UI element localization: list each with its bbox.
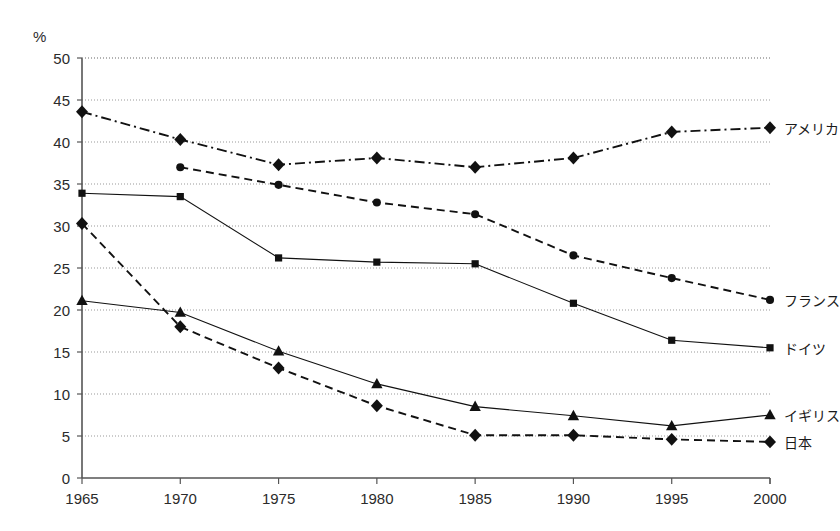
x-tick-label: 1965 (47, 490, 117, 507)
marker-square (275, 254, 282, 261)
marker-circle (373, 198, 381, 206)
y-tick-label: 0 (24, 470, 70, 487)
x-tick-label: 1995 (637, 490, 707, 507)
y-tick-label: 25 (24, 260, 70, 277)
marker-diamond (764, 121, 776, 134)
data-series-layer (76, 105, 776, 448)
x-tick-label: 1970 (145, 490, 215, 507)
x-tick-label: 1990 (538, 490, 608, 507)
series-japan (76, 217, 776, 448)
marker-diamond (273, 361, 285, 374)
y-tick-label: 30 (24, 218, 70, 235)
marker-triangle (273, 345, 284, 355)
series-line (82, 193, 770, 348)
marker-diamond (273, 158, 285, 171)
y-tick-label: 40 (24, 134, 70, 151)
series-united-kingdom (76, 295, 775, 430)
legend-label: フランス (784, 290, 840, 310)
y-tick-label: 50 (24, 50, 70, 67)
series-line (180, 167, 770, 300)
series-line (82, 301, 770, 426)
legend-label: 日本 (784, 432, 812, 452)
legend-label: イギリス (784, 405, 840, 425)
marker-circle (176, 163, 184, 171)
marker-triangle (764, 409, 775, 419)
marker-circle (766, 296, 774, 304)
marker-circle (471, 210, 479, 218)
marker-square (668, 337, 675, 344)
y-tick-label: 15 (24, 344, 70, 361)
marker-square (472, 260, 479, 267)
series-line (82, 224, 770, 442)
marker-diamond (764, 435, 776, 448)
x-tick-label: 1985 (440, 490, 510, 507)
marker-square (570, 300, 577, 307)
y-tick-label: 35 (24, 176, 70, 193)
y-tick-label: 10 (24, 386, 70, 403)
marker-diamond (76, 105, 88, 118)
marker-diamond (469, 161, 481, 174)
marker-square (177, 193, 184, 200)
marker-square (766, 344, 773, 351)
marker-diamond (174, 133, 186, 146)
marker-square (78, 190, 85, 197)
marker-circle (668, 274, 676, 282)
marker-diamond (371, 151, 383, 164)
marker-square (373, 259, 380, 266)
marker-diamond (567, 429, 579, 442)
marker-diamond (567, 151, 579, 164)
marker-diamond (469, 429, 481, 442)
marker-diamond (371, 399, 383, 412)
marker-circle (275, 181, 283, 189)
y-axis-unit-label: % (33, 28, 46, 45)
x-tick-label: 1975 (244, 490, 314, 507)
x-tick-label: 1980 (342, 490, 412, 507)
x-tick-label: 2000 (735, 490, 805, 507)
legend-label: アメリカ (784, 118, 839, 138)
legend-label: ドイツ (784, 338, 826, 358)
y-tick-label: 5 (24, 428, 70, 445)
marker-triangle (76, 295, 87, 305)
y-tick-label: 45 (24, 92, 70, 109)
marker-diamond (666, 125, 678, 138)
y-tick-label: 20 (24, 302, 70, 319)
gridlines (82, 58, 770, 436)
marker-circle (569, 251, 577, 259)
marker-diamond (666, 433, 678, 446)
